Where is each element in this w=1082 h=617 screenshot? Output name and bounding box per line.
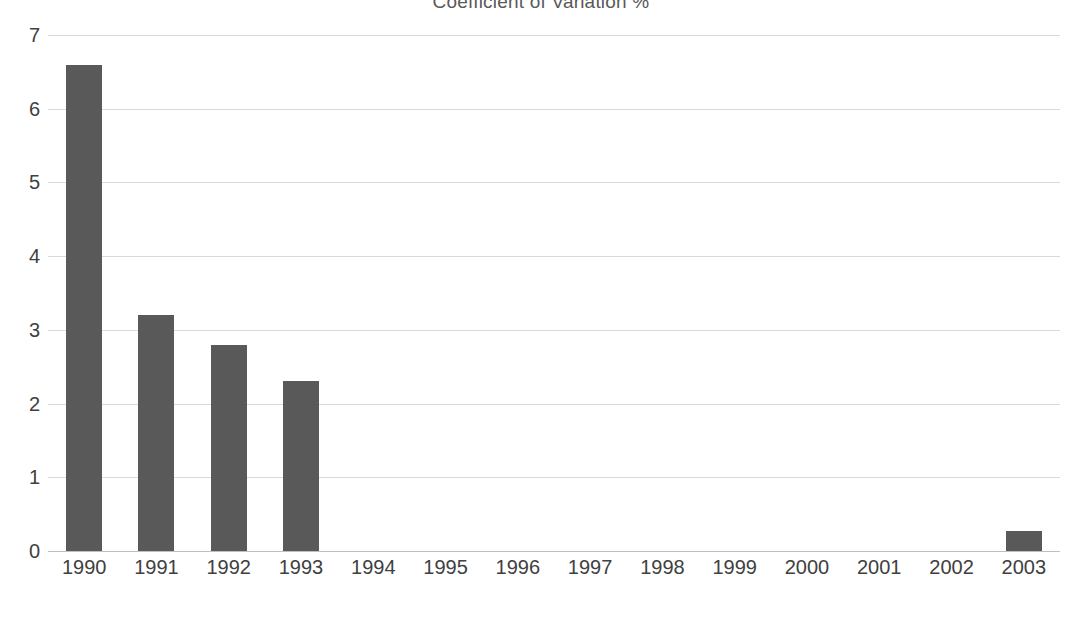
y-axis: 01234567	[0, 35, 40, 551]
x-axis-tick-label: 1996	[482, 556, 554, 578]
x-axis-tick-label: 1994	[337, 556, 409, 578]
chart-title: Coefficient of Variation %	[0, 0, 1082, 13]
x-axis-tick-label: 1998	[626, 556, 698, 578]
chart-container: Coefficient of Variation % 01234567 1990…	[0, 0, 1082, 617]
x-axis: 1990199119921993199419951996199719981999…	[48, 556, 1060, 578]
bar-slot	[843, 35, 915, 551]
bar	[211, 345, 247, 551]
y-axis-tick-label: 6	[6, 99, 40, 119]
x-axis-tick-label: 1995	[409, 556, 481, 578]
bar-slot	[265, 35, 337, 551]
x-axis-tick-label: 1990	[48, 556, 120, 578]
x-axis-tick-label: 2000	[771, 556, 843, 578]
y-axis-tick-label: 3	[6, 320, 40, 340]
bar-slot	[699, 35, 771, 551]
bar-slot	[915, 35, 987, 551]
x-axis-tick-label: 1991	[120, 556, 192, 578]
bar	[1006, 531, 1042, 551]
x-axis-tick-label: 1993	[265, 556, 337, 578]
bar-slot	[771, 35, 843, 551]
bar-slot	[193, 35, 265, 551]
x-axis-tick-label: 1992	[193, 556, 265, 578]
x-axis-tick-label: 2001	[843, 556, 915, 578]
bar-slot	[482, 35, 554, 551]
x-axis-tick-label: 1999	[699, 556, 771, 578]
y-axis-tick-label: 2	[6, 394, 40, 414]
bar-slot	[554, 35, 626, 551]
y-axis-tick-label: 1	[6, 467, 40, 487]
y-axis-tick-label: 7	[6, 25, 40, 45]
bar-slot	[120, 35, 192, 551]
bar	[138, 315, 174, 551]
bar-series	[48, 35, 1060, 551]
bar	[66, 65, 102, 552]
bar-slot	[48, 35, 120, 551]
bar	[283, 381, 319, 551]
bar-slot	[409, 35, 481, 551]
x-axis-tick-label: 2003	[988, 556, 1060, 578]
x-axis-tick-label: 1997	[554, 556, 626, 578]
bar-slot	[988, 35, 1060, 551]
bar-slot	[337, 35, 409, 551]
y-axis-tick-label: 5	[6, 172, 40, 192]
x-axis-tick-label: 2002	[915, 556, 987, 578]
y-axis-tick-label: 0	[6, 541, 40, 561]
bar-slot	[626, 35, 698, 551]
y-axis-tick-label: 4	[6, 246, 40, 266]
axis-baseline	[48, 551, 1060, 552]
